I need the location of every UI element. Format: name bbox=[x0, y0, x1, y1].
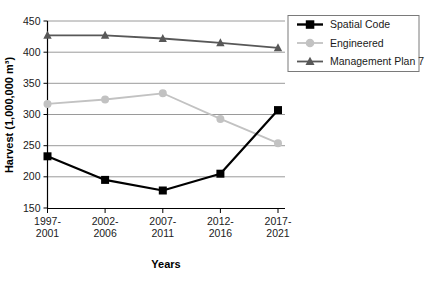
y-tick-label: 300 bbox=[23, 108, 41, 120]
legend: Spatial CodeEngineeredManagement Plan 7 bbox=[288, 16, 424, 72]
legend-label: Spatial Code bbox=[330, 18, 390, 30]
x-tick-label: 2007-2011 bbox=[149, 215, 176, 239]
data-point bbox=[274, 139, 282, 147]
x-axis-title: Years bbox=[151, 258, 180, 270]
data-point bbox=[216, 115, 224, 123]
y-tick-label: 150 bbox=[23, 202, 41, 214]
legend-marker bbox=[306, 20, 315, 29]
legend-marker bbox=[306, 39, 315, 48]
legend-label: Management Plan 7 bbox=[330, 55, 424, 67]
chart-canvas: 150200250300350400450 1997-20012002-2006… bbox=[0, 0, 427, 282]
data-point bbox=[101, 96, 109, 104]
x-tick-label: 2002-2006 bbox=[92, 215, 119, 239]
data-point bbox=[159, 187, 167, 195]
y-tick-label: 400 bbox=[23, 46, 41, 58]
legend-label: Engineered bbox=[330, 37, 384, 49]
y-tick-label: 250 bbox=[23, 139, 41, 151]
x-tick-label: 1997-2001 bbox=[34, 215, 61, 239]
y-tick-label: 200 bbox=[23, 170, 41, 182]
data-point bbox=[159, 89, 167, 97]
x-tick-label: 2017-2021 bbox=[265, 215, 292, 239]
x-tick-label: 2012-2016 bbox=[207, 215, 234, 239]
harvest-line-chart: 150200250300350400450 1997-20012002-2006… bbox=[0, 0, 427, 282]
data-point bbox=[101, 176, 109, 184]
data-point bbox=[44, 152, 52, 160]
data-point bbox=[274, 106, 282, 114]
y-tick-label: 350 bbox=[23, 77, 41, 89]
y-axis-title: Harvest (1,000,000 m³) bbox=[3, 57, 15, 174]
data-point bbox=[216, 170, 224, 178]
y-tick-label: 450 bbox=[23, 15, 41, 27]
data-point bbox=[44, 100, 52, 108]
